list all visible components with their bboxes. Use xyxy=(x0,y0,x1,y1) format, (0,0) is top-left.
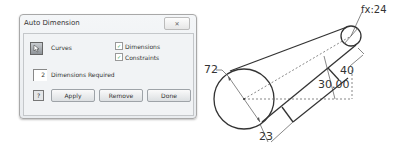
dimensions-required-label: Dimensions Required xyxy=(51,71,115,78)
dialog-title: Auto Dimension xyxy=(24,19,80,27)
close-button[interactable]: ✕ xyxy=(164,17,190,30)
constraints-checkbox-row[interactable]: ✓ Constraints xyxy=(115,53,159,61)
close-icon: ✕ xyxy=(174,20,179,27)
center-point[interactable] xyxy=(243,98,245,100)
dimensions-checkbox-row[interactable]: ✓ Dimensions xyxy=(115,42,160,50)
length-label[interactable]: 40 xyxy=(340,64,354,77)
bottom-label[interactable]: 23 xyxy=(259,130,273,143)
curves-label: Curves xyxy=(51,44,72,51)
big-diameter-label[interactable]: 72 xyxy=(204,63,218,76)
done-button[interactable]: Done xyxy=(147,89,191,102)
offset-rect-side xyxy=(282,107,293,122)
help-button[interactable]: ? xyxy=(33,90,44,101)
curves-select-button[interactable] xyxy=(30,42,43,55)
apply-button[interactable]: Apply xyxy=(51,89,95,102)
fx-label[interactable]: fx:24 xyxy=(361,4,387,15)
dimensions-required-count: 2 xyxy=(35,71,45,78)
remove-button[interactable]: Remove xyxy=(99,89,143,102)
constraints-checkbox[interactable]: ✓ xyxy=(115,53,123,61)
length-ext-line xyxy=(358,48,364,54)
dimensions-label: Dimensions xyxy=(125,43,160,50)
auto-dimension-dialog: Auto Dimension ✕ Curves ✓ Dimensions ✓ C… xyxy=(19,14,197,119)
sketch-drawing: 72 fx:24 30.00 40 23 xyxy=(200,0,402,154)
constraints-label: Constraints xyxy=(125,54,159,61)
dialog-panel: Curves ✓ Dimensions ✓ Constraints 2 Dime… xyxy=(23,33,194,116)
upper-tangent-line[interactable] xyxy=(230,27,347,71)
help-icon: ? xyxy=(37,92,40,99)
dialog-titlebar[interactable]: Auto Dimension ✕ xyxy=(20,15,196,33)
dimensions-checkbox[interactable]: ✓ xyxy=(115,42,123,50)
bottom-dim-line xyxy=(271,122,293,142)
cursor-arrow-icon xyxy=(32,44,41,53)
